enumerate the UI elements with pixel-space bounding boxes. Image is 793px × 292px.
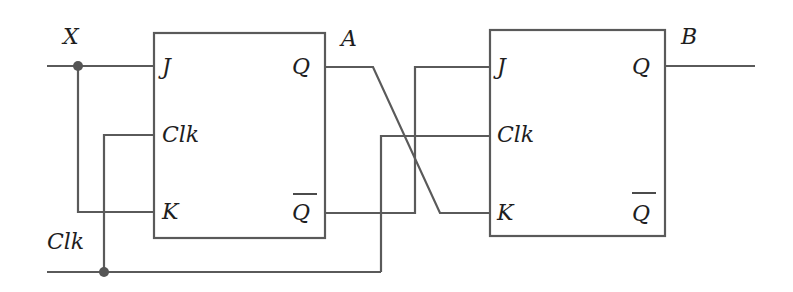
label-b: B [680,24,697,49]
ff2-pin-q: Q [632,54,650,79]
junction-dot-x [73,61,83,71]
ff2-pin-k: K [496,200,515,225]
wire-clk-to-ff1 [104,135,154,272]
ff1-pin-k: K [161,199,180,224]
ff2-pin-qbar: Q [632,201,650,226]
label-clk-input: Clk [47,229,84,254]
ff1-pin-qbar: Q [292,200,310,225]
label-a: A [339,26,357,51]
wire-a-to-k2 [325,67,490,213]
ff2-pin-clk: Clk [497,122,534,147]
junction-dot-clk [99,267,109,277]
label-x: X [61,24,80,49]
ff1-pin-clk: Clk [162,122,199,147]
wire-x-to-k1 [78,66,154,212]
circuit-diagram: X Clk A B J Clk K Q Q J Clk K Q Q [0,0,793,292]
ff1-pin-q: Q [292,54,310,79]
